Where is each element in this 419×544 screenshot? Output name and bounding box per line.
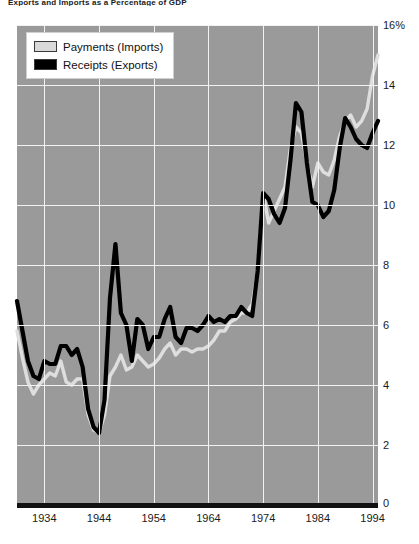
plot-area <box>17 25 378 505</box>
legend-swatch-exports <box>34 59 57 70</box>
x-axis-tick-label: 1974 <box>251 512 275 524</box>
gridline-horizontal <box>17 445 378 446</box>
gridline-vertical <box>44 25 45 505</box>
gridline-vertical <box>263 25 264 505</box>
y-axis-tick-label: 4 <box>383 379 389 391</box>
y-axis-tick-label: 12 <box>383 139 395 151</box>
y-axis-tick-label: 8 <box>383 259 389 271</box>
x-axis-tick-label: 1934 <box>32 512 56 524</box>
y-axis-tick-label: 10 <box>383 199 395 211</box>
chart-legend: Payments (Imports) Receipts (Exports) <box>26 32 174 79</box>
x-axis-tick-label: 1994 <box>360 512 384 524</box>
y-axis-tick-label: 14 <box>383 79 395 91</box>
gridline-horizontal <box>17 385 378 386</box>
x-axis-tick-label: 1984 <box>306 512 330 524</box>
y-axis-tick-label: 16% <box>383 19 405 31</box>
gridline-vertical <box>373 25 374 505</box>
legend-item-exports: Receipts (Exports) <box>34 57 163 72</box>
gridline-horizontal <box>17 325 378 326</box>
y-axis-tick-label: 6 <box>383 319 389 331</box>
chart-container: Exports and Imports as a Percentage of G… <box>0 0 419 544</box>
gridline-vertical <box>318 25 319 505</box>
y-axis-tick-label: 2 <box>383 439 389 451</box>
gridline-vertical <box>154 25 155 505</box>
axis-zero-label: 0 <box>383 497 389 509</box>
series-line-imports <box>17 55 378 433</box>
gridline-horizontal <box>17 205 378 206</box>
x-axis-tick-label: 1964 <box>196 512 220 524</box>
gridline-vertical <box>208 25 209 505</box>
axis-baseline <box>17 503 378 508</box>
legend-item-imports: Payments (Imports) <box>34 39 163 54</box>
gridline-horizontal <box>17 265 378 266</box>
legend-swatch-imports <box>34 41 57 52</box>
x-axis-tick-label: 1944 <box>87 512 111 524</box>
legend-label-exports: Receipts (Exports) <box>63 59 158 71</box>
gridline-horizontal <box>17 85 378 86</box>
x-axis-tick-label: 1954 <box>141 512 165 524</box>
gridline-horizontal <box>17 145 378 146</box>
gridline-horizontal <box>17 25 378 26</box>
chart-title: Exports and Imports as a Percentage of G… <box>8 0 187 6</box>
legend-label-imports: Payments (Imports) <box>63 41 163 53</box>
gridline-vertical <box>99 25 100 505</box>
